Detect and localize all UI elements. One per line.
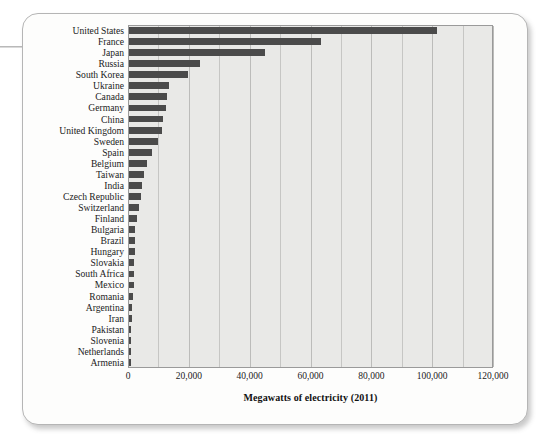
bar	[129, 71, 188, 78]
x-tick-label: 20,000	[176, 371, 202, 381]
x-tick-label: 100,000	[417, 371, 448, 381]
category-label: Bulgaria	[91, 224, 124, 235]
chart-row: Belgium	[0, 158, 552, 169]
chart-row: Czech Republic	[0, 191, 552, 202]
x-axis-title: Megawatts of electricity (2011)	[128, 392, 493, 403]
category-label: United Kingdom	[59, 125, 124, 136]
chart-row: South Africa	[0, 268, 552, 279]
x-tick-label: 60,000	[297, 371, 323, 381]
chart-row: Switzerland	[0, 202, 552, 213]
chart-row: Iran	[0, 313, 552, 324]
chart-row: France	[0, 36, 552, 47]
chart-row: South Korea	[0, 69, 552, 80]
bar	[129, 116, 163, 123]
bar	[129, 293, 133, 300]
bar	[129, 226, 135, 233]
bar-chart: United StatesFranceJapanRussiaSouth Kore…	[0, 0, 552, 441]
chart-row: Hungary	[0, 246, 552, 257]
chart-row: Finland	[0, 213, 552, 224]
bar	[129, 359, 131, 366]
bar	[129, 182, 142, 189]
category-label: Mexico	[95, 279, 124, 290]
bar	[129, 204, 139, 211]
category-label: France	[98, 36, 124, 47]
bar	[129, 337, 131, 344]
category-label: Slovakia	[90, 257, 124, 268]
bar	[129, 271, 134, 278]
chart-row: Mexico	[0, 279, 552, 290]
chart-row: United States	[0, 25, 552, 36]
bar	[129, 215, 137, 222]
category-label: Romania	[89, 291, 124, 302]
chart-row: Taiwan	[0, 169, 552, 180]
chart-row: Netherlands	[0, 346, 552, 357]
category-label: Switzerland	[78, 202, 124, 213]
chart-row: Pakistan	[0, 324, 552, 335]
category-label: Armenia	[90, 357, 124, 368]
bar	[129, 38, 321, 45]
bar	[129, 248, 135, 255]
category-label: United States	[73, 25, 124, 36]
chart-row: Spain	[0, 147, 552, 158]
bar	[129, 326, 131, 333]
category-label: Taiwan	[96, 169, 124, 180]
chart-row: United Kingdom	[0, 125, 552, 136]
x-tick-label: 80,000	[358, 371, 384, 381]
x-axis-tick-labels: 020,00040,00060,00080,000100,000120,000	[0, 371, 552, 385]
bar	[129, 82, 169, 89]
category-label: Slovenia	[90, 335, 124, 346]
chart-row: Japan	[0, 47, 552, 58]
bar	[129, 193, 141, 200]
chart-row: Armenia	[0, 357, 552, 368]
x-tick-label: 0	[126, 371, 131, 381]
category-label: Netherlands	[78, 346, 124, 357]
chart-row: Russia	[0, 58, 552, 69]
bar	[129, 160, 147, 167]
bar	[129, 171, 144, 178]
bar	[129, 237, 135, 244]
category-label: Japan	[102, 47, 124, 58]
x-tick-label: 40,000	[237, 371, 263, 381]
category-label: Hungary	[90, 246, 124, 257]
bar	[129, 259, 134, 266]
category-label: India	[104, 180, 124, 191]
category-label: Iran	[109, 313, 124, 324]
category-label: China	[101, 114, 124, 125]
category-label: Brazil	[101, 235, 124, 246]
chart-rows: United StatesFranceJapanRussiaSouth Kore…	[0, 25, 552, 368]
chart-row: Ukraine	[0, 80, 552, 91]
bar	[129, 93, 167, 100]
x-tick-label: 120,000	[478, 371, 509, 381]
bar	[129, 105, 166, 112]
category-label: Russia	[98, 58, 124, 69]
chart-row: Bulgaria	[0, 224, 552, 235]
chart-row: Brazil	[0, 235, 552, 246]
category-label: Germany	[88, 102, 124, 113]
bar	[129, 60, 200, 67]
chart-row: Romania	[0, 291, 552, 302]
chart-row: Sweden	[0, 136, 552, 147]
bar	[129, 49, 265, 56]
bar	[129, 149, 152, 156]
bar	[129, 127, 162, 134]
category-label: Belgium	[91, 158, 124, 169]
category-label: Ukraine	[93, 80, 124, 91]
category-label: Spain	[102, 147, 124, 158]
chart-row: China	[0, 114, 552, 125]
chart-row: Slovenia	[0, 335, 552, 346]
bar	[129, 304, 132, 311]
chart-row: India	[0, 180, 552, 191]
category-label: Canada	[95, 91, 124, 102]
bar	[129, 348, 131, 355]
category-label: Finland	[95, 213, 124, 224]
category-label: South Korea	[76, 69, 124, 80]
chart-row: Slovakia	[0, 257, 552, 268]
chart-row: Canada	[0, 91, 552, 102]
chart-row: Argentina	[0, 302, 552, 313]
bar	[129, 27, 437, 34]
category-label: South Africa	[75, 268, 124, 279]
chart-row: Germany	[0, 102, 552, 113]
bar	[129, 315, 132, 322]
bar	[129, 282, 134, 289]
category-label: Argentina	[86, 302, 124, 313]
